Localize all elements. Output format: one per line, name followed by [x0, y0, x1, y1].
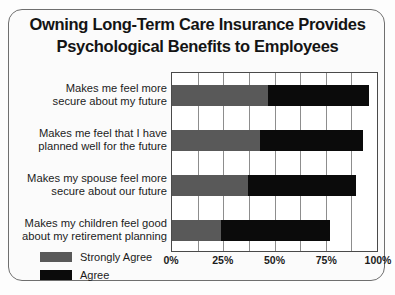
legend-label: Agree: [80, 269, 109, 281]
category-label: Makes me feel that I have planned well f…: [15, 127, 167, 154]
category-label: Makes me feel more secure about my futur…: [15, 82, 167, 109]
bar-segment-strongly-agree: [172, 220, 221, 241]
x-tick-label: 50%: [264, 254, 285, 266]
chart-figure: Owning Long-Term Care Insurance Provides…: [0, 0, 395, 295]
legend-swatch: [40, 252, 72, 262]
bar-row: [172, 85, 377, 106]
chart-title: Owning Long-Term Care Insurance Provides…: [14, 14, 381, 58]
bar-series-container: [172, 73, 377, 251]
bar-segment-strongly-agree: [172, 85, 268, 106]
category-label: Makes my spouse feel more secure about o…: [15, 172, 167, 199]
x-tick-label: 100%: [365, 254, 392, 266]
x-axis-tick-labels: 0%25%50%75%100%: [171, 254, 378, 270]
category-label: Makes my children feel good about my ret…: [15, 217, 167, 244]
legend-label: Strongly Agree: [80, 251, 152, 263]
bar-segment-agree: [248, 175, 357, 196]
bar-segment-agree: [260, 130, 363, 151]
bar-row: [172, 130, 377, 151]
chart-legend: Strongly AgreeAgree: [40, 249, 152, 285]
legend-item: Agree: [40, 267, 152, 283]
x-tick-label: 0%: [163, 254, 178, 266]
bar-segment-agree: [221, 220, 330, 241]
x-tick-label: 25%: [212, 254, 233, 266]
bar-segment-strongly-agree: [172, 130, 260, 151]
bar-segment-agree: [268, 85, 368, 106]
bar-row: [172, 220, 377, 241]
legend-item: Strongly Agree: [40, 249, 152, 265]
bar-row: [172, 175, 377, 196]
bar-segment-strongly-agree: [172, 175, 248, 196]
category-axis-labels: Makes me feel more secure about my futur…: [10, 72, 167, 252]
x-tick-label: 75%: [316, 254, 337, 266]
legend-swatch: [40, 270, 72, 280]
plot-area: [171, 72, 378, 252]
